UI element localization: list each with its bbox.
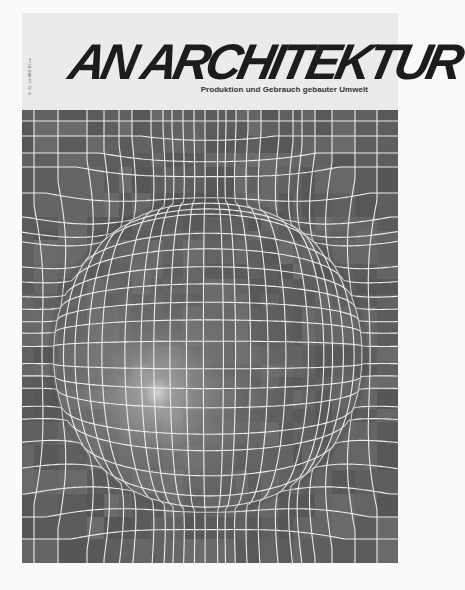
issue-info: Nr. 23, Juli 2010, 8 Euro [28, 58, 32, 95]
magazine-cover: Nr. 23, Juli 2010, 8 Euro AN ARCHITEKTUR… [22, 13, 398, 563]
distorted-grid-sphere [22, 110, 398, 563]
magazine-subtitle: Produktion und Gebrauch gebauter Umwelt [201, 85, 368, 94]
magazine-logo: AN ARCHITEKTUR [65, 39, 375, 85]
cover-artwork-distorted-grid [22, 110, 398, 563]
logo-text: AN ARCHITEKTUR [64, 34, 465, 90]
